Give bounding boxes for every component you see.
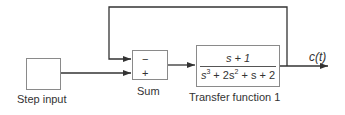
tf-denominator: s3 + 2s2 + s + 2 (201, 67, 275, 81)
step-input-label: Step input (17, 93, 67, 105)
transfer-function-block[interactable]: s + 1 s3 + 2s2 + s + 2 (196, 45, 280, 87)
sum-label: Sum (137, 85, 160, 97)
step-input-block[interactable] (26, 58, 61, 90)
sum-block[interactable]: − + (132, 50, 168, 80)
transfer-function-label: Transfer function 1 (189, 91, 280, 103)
tf-numerator: s + 1 (226, 52, 250, 66)
output-label: c(t) (309, 50, 326, 64)
sum-minus-sign: − (142, 54, 148, 65)
sum-plus-sign: + (142, 68, 148, 79)
